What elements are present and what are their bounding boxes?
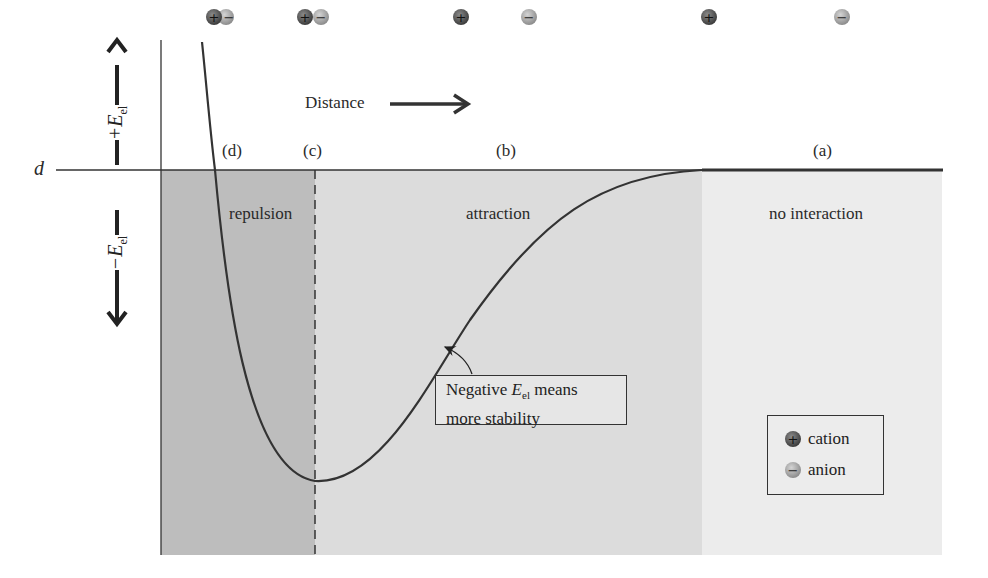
stage-label-a: (a) xyxy=(813,141,832,161)
svg-text:−: − xyxy=(224,10,235,25)
legend-item-anion: − anion xyxy=(784,459,846,481)
ion-pair-c: + − xyxy=(297,9,329,25)
legend-label-anion: anion xyxy=(808,460,846,480)
svg-text:+: + xyxy=(788,432,799,447)
region-label-attraction: attraction xyxy=(466,204,530,224)
stability-callout: Negative Eel means more stability xyxy=(435,375,627,425)
anion-icon: − xyxy=(784,461,802,479)
svg-text:−: − xyxy=(524,10,535,25)
cation-icon: + xyxy=(784,430,802,448)
region-label-no-interaction: no interaction xyxy=(769,204,863,224)
svg-text:+: + xyxy=(704,10,715,25)
distance-arrow xyxy=(390,95,468,113)
stage-label-d: (d) xyxy=(222,141,242,161)
distance-label: Distance xyxy=(305,93,364,113)
svg-text:+: + xyxy=(300,10,311,25)
callout-line-2: more stability xyxy=(446,407,626,431)
positive-energy-label: +Eel xyxy=(104,101,130,145)
ion-pair-a: + − xyxy=(701,9,850,25)
svg-text:+: + xyxy=(456,10,467,25)
svg-text:−: − xyxy=(316,10,327,25)
stage-label-b: (b) xyxy=(496,141,516,161)
negative-energy-label: −Eel xyxy=(104,231,130,275)
baseline-d-label: d xyxy=(34,157,44,180)
callout-pointer xyxy=(445,347,472,374)
legend-label-cation: cation xyxy=(808,429,850,449)
stage-label-c: (c) xyxy=(303,141,322,161)
svg-text:−: − xyxy=(788,463,799,478)
ion-pair-d: + − xyxy=(206,9,234,25)
svg-text:−: − xyxy=(837,10,848,25)
legend: + cation − anion xyxy=(767,415,884,495)
callout-line-1: Negative Eel means xyxy=(446,378,626,407)
svg-text:+: + xyxy=(209,10,220,25)
ion-pair-b: + − xyxy=(453,9,537,25)
legend-item-cation: + cation xyxy=(784,428,850,450)
region-label-repulsion: repulsion xyxy=(229,204,292,224)
